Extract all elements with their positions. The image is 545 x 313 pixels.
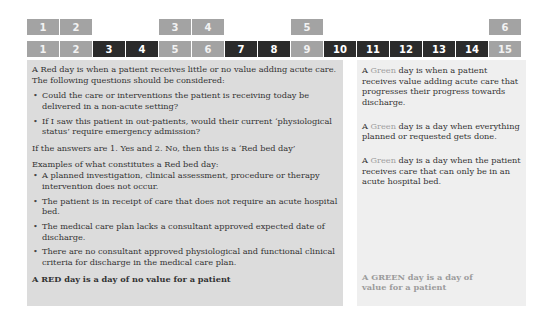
green-highlight: Green	[371, 121, 396, 131]
green-highlight: Green	[371, 155, 396, 165]
value-day-cell	[423, 19, 455, 35]
green-paragraph: A Green day is a day when the patient re…	[362, 155, 521, 187]
bed-day-cell: 4	[126, 41, 158, 57]
bed-day-cell: 7	[225, 41, 257, 57]
bed-day-cell: 1	[27, 41, 59, 57]
bed-day-cell: 12	[390, 41, 422, 57]
value-day-cell	[357, 19, 389, 35]
value-day-cell: 3	[159, 19, 191, 35]
green-footer: A GREEN day is a day of value for a pati…	[362, 272, 492, 293]
value-day-cell	[324, 19, 356, 35]
red-conclusion: If the answers are 1. Yes and 2. No, the…	[32, 143, 338, 154]
value-day-cell	[390, 19, 422, 35]
list-item: Could the care or interventions the pati…	[42, 90, 338, 111]
list-item: A planned investigation, clinical assess…	[42, 170, 338, 191]
green-highlight: Green	[371, 65, 396, 75]
green-paragraph: A Green day is a day when everything pla…	[362, 121, 521, 142]
value-day-cell: 4	[192, 19, 224, 35]
bed-day-cell: 6	[192, 41, 224, 57]
value-day-cell: 2	[60, 19, 92, 35]
bed-day-cell: 15	[489, 41, 521, 57]
value-day-cell: 5	[291, 19, 323, 35]
red-footer: A RED day is a day of no value for a pat…	[32, 274, 338, 285]
list-item: There are no consultant approved physiol…	[42, 246, 338, 267]
bed-day-cell: 8	[258, 41, 290, 57]
bed-day-cell: 2	[60, 41, 92, 57]
red-day-panel: A Red day is when a patient receives lit…	[27, 60, 343, 306]
list-item: The medical care plan lacks a consultant…	[42, 221, 338, 242]
red-examples-heading: Examples of what constitutes a Red bed d…	[32, 159, 338, 170]
bed-day-cell: 11	[357, 41, 389, 57]
green-paragraph: A Green day is when a patient receives v…	[362, 65, 521, 108]
value-day-cell	[225, 19, 257, 35]
bed-day-cell: 13	[423, 41, 455, 57]
red-questions-list: Could the care or interventions the pati…	[32, 90, 338, 137]
value-day-cell	[258, 19, 290, 35]
bed-day-cell: 14	[456, 41, 488, 57]
green-day-panel: A Green day is when a patient receives v…	[357, 60, 526, 306]
value-day-cell: 1	[27, 19, 59, 35]
red-examples-list: A planned investigation, clinical assess…	[32, 170, 338, 267]
bed-day-cell: 9	[291, 41, 323, 57]
value-day-cell: 6	[489, 19, 521, 35]
bed-day-cell: 3	[93, 41, 125, 57]
list-item: The patient is in receipt of care that d…	[42, 196, 338, 217]
value-day-cell	[456, 19, 488, 35]
value-day-row: 1 2 3 4 5 6	[27, 19, 522, 35]
red-intro: A Red day is when a patient receives lit…	[32, 64, 338, 85]
value-day-cell	[126, 19, 158, 35]
value-day-cell	[93, 19, 125, 35]
bed-day-row: 1 2 3 4 5 6 7 8 9 10 11 12 13 14 15	[27, 41, 522, 57]
list-item: If I saw this patient in out-patients, w…	[42, 116, 338, 137]
bed-day-cell: 10	[324, 41, 356, 57]
bed-day-cell: 5	[159, 41, 191, 57]
